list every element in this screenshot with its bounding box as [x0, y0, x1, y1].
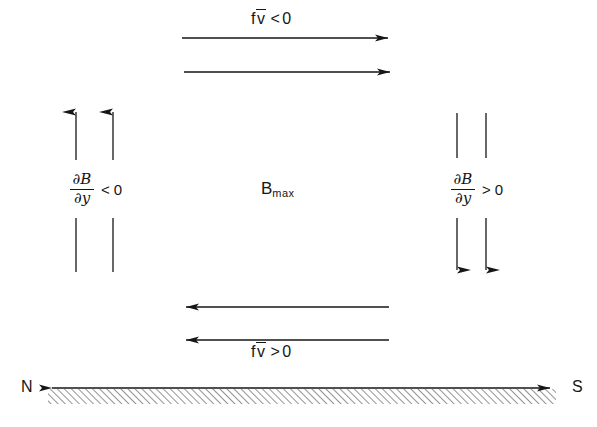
- diagram-canvas: fv<0 fv>0 Bmax ∂B ∂y < 0 ∂B ∂y > 0 N S: [0, 0, 597, 427]
- b-max-subscript: max: [272, 187, 294, 199]
- right-derivative-numerator: ∂B: [452, 172, 475, 188]
- b-max-base: B: [261, 179, 272, 198]
- bottom-flux-v: v: [257, 343, 266, 360]
- left-derivative-label: ∂B ∂y < 0: [70, 172, 122, 207]
- top-flux-v-bar: v: [256, 11, 267, 27]
- overbar-glyph: [256, 9, 267, 10]
- top-flux-operator: <: [266, 10, 282, 27]
- top-arrow-group: [182, 38, 390, 72]
- right-derivative-operator: >: [475, 182, 491, 197]
- left-derivative-denominator: ∂y: [72, 191, 92, 207]
- left-derivative-fraction: ∂B ∂y: [70, 172, 94, 207]
- right-derivative-value: 0: [491, 182, 503, 197]
- diagram-vector-layer: [0, 0, 597, 427]
- ground-axis-group: [48, 388, 556, 404]
- compass-label-north: N: [21, 379, 33, 395]
- top-flux-label: fv<0: [251, 11, 292, 27]
- left-derivative-operator: <: [94, 182, 110, 197]
- top-flux-value: 0: [282, 10, 291, 27]
- right-derivative-denominator: ∂y: [453, 191, 473, 207]
- right-derivative-label: ∂B ∂y > 0: [451, 172, 503, 207]
- left-derivative-numerator: ∂B: [71, 172, 94, 188]
- b-max-label: Bmax: [261, 180, 294, 199]
- left-derivative-value: 0: [110, 182, 122, 197]
- ground-hatching: [48, 389, 556, 404]
- compass-label-south: S: [572, 379, 583, 395]
- bottom-flux-operator: >: [266, 343, 282, 360]
- overbar-glyph: [256, 342, 267, 343]
- bottom-arrow-group: [186, 307, 389, 340]
- bottom-flux-value: 0: [282, 343, 291, 360]
- bottom-flux-v-bar: v: [256, 344, 267, 360]
- top-flux-v: v: [257, 10, 266, 27]
- right-derivative-fraction: ∂B ∂y: [451, 172, 475, 207]
- bottom-flux-label: fv>0: [251, 344, 292, 360]
